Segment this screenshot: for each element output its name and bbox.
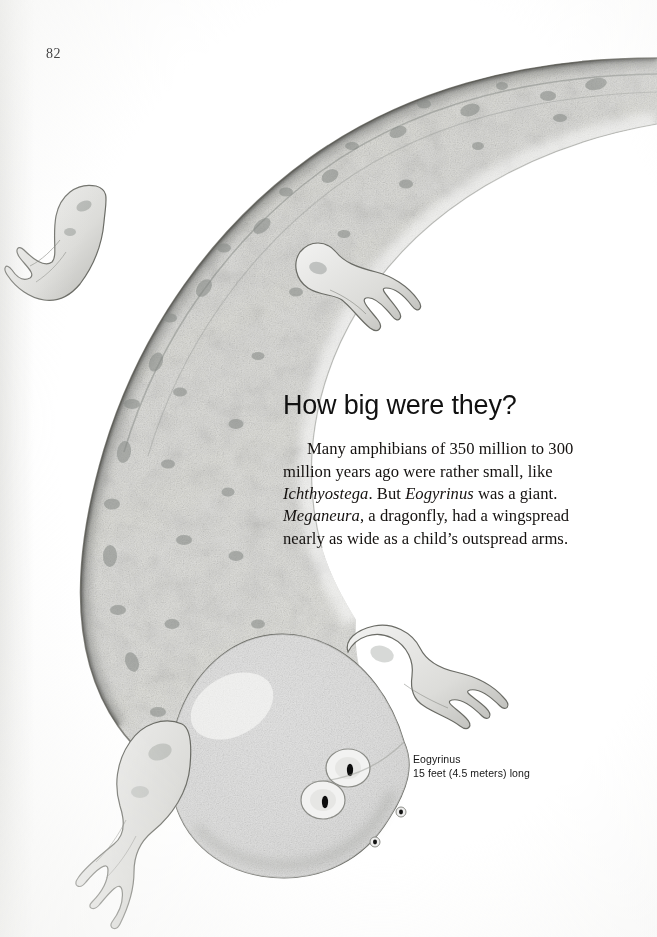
figure-caption: Eogyrinus 15 feet (4.5 meters) long	[413, 752, 530, 780]
page-title: How big were they?	[283, 391, 605, 419]
figure-caption-size: 15 feet (4.5 meters) long	[413, 766, 530, 780]
article-text-block: How big were they? Many amphibians of 35…	[283, 391, 605, 550]
book-page: 82 How big were they? Many amphibians of…	[0, 0, 657, 937]
eogyrinus-eye-upper	[326, 749, 370, 787]
eogyrinus-limb-upper-left	[5, 185, 106, 300]
figure-caption-name: Eogyrinus	[413, 752, 530, 766]
article-paragraph: Many amphibians of 350 million to 300 mi…	[283, 438, 605, 549]
page-number: 82	[46, 46, 61, 62]
eogyrinus-head	[170, 634, 409, 878]
eogyrinus-limb-lower-left	[76, 721, 191, 929]
eogyrinus-eye-lower	[301, 781, 345, 819]
